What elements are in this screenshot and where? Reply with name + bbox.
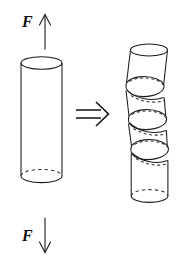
force-label-top: F bbox=[22, 14, 33, 30]
force-label-bottom: F bbox=[22, 228, 33, 244]
